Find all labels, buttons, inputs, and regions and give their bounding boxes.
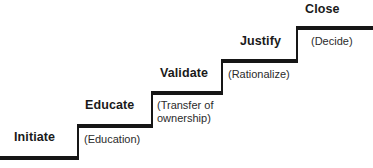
- step-riser-educate-to-validate: [151, 92, 153, 126]
- step-title-validate: Validate: [160, 67, 208, 80]
- step-caption-validate: (Rationalize): [228, 68, 290, 81]
- step-caption-educate: (Transfer ofownership): [157, 99, 229, 125]
- step-riser-validate-to-justify: [221, 60, 223, 93]
- step-riser-initiate-to-educate: [77, 125, 79, 158]
- step-caption-initiate: (Education): [84, 133, 140, 146]
- staircase-diagram: Initiate (Education) Educate (Transfer o…: [0, 0, 373, 168]
- step-tread-initiate: [0, 156, 79, 160]
- step-caption-educate-line-2: ownership): [157, 112, 211, 124]
- step-caption-educate-line-1: (Transfer of: [157, 99, 213, 111]
- step-title-initiate: Initiate: [14, 131, 55, 144]
- step-title-educate: Educate: [85, 99, 134, 112]
- step-caption-justify: (Decide): [311, 35, 353, 48]
- step-title-close: Close: [305, 3, 340, 16]
- step-tread-educate: [77, 124, 153, 128]
- step-title-justify: Justify: [240, 35, 281, 48]
- step-tread-justify: [221, 59, 298, 63]
- step-tread-close: [296, 26, 373, 30]
- step-riser-justify-to-close: [296, 27, 298, 61]
- step-tread-validate: [151, 91, 223, 95]
